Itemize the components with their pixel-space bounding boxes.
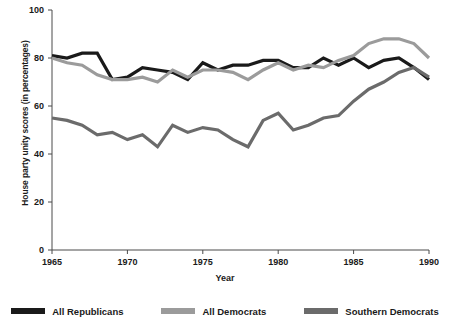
x-tick-label: 1975 — [181, 257, 225, 267]
x-tick-label: 1965 — [30, 257, 74, 267]
x-axis-title: Year — [0, 273, 450, 283]
chart-legend: All RepublicansAll DemocratsSouthern Dem… — [0, 303, 450, 319]
x-tick-label: 1990 — [407, 257, 450, 267]
y-tick-label: 0 — [10, 245, 44, 255]
legend-item-0: All Republicans — [11, 306, 123, 317]
legend-label: All Democrats — [202, 306, 266, 317]
legend-item-2: Southern Democrats — [304, 306, 438, 317]
legend-swatch-icon — [11, 308, 45, 314]
x-tick-label: 1985 — [332, 257, 376, 267]
x-tick-label: 1980 — [256, 257, 300, 267]
x-tick-label: 1970 — [105, 257, 149, 267]
legend-label: Southern Democrats — [345, 306, 438, 317]
legend-item-1: All Democrats — [161, 306, 266, 317]
line-chart: 020406080100 196519701975198019851990 Ho… — [0, 0, 450, 326]
legend-swatch-icon — [304, 308, 338, 314]
legend-swatch-icon — [161, 308, 195, 314]
y-axis-title: House party unity scores (in percentages… — [20, 3, 30, 243]
data-series-group — [52, 39, 429, 147]
legend-label: All Republicans — [52, 306, 123, 317]
